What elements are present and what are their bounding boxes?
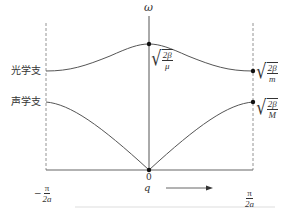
optical-max-annotation: √2βμ xyxy=(150,47,173,71)
optical-edge-annotation: √2βm xyxy=(255,60,278,84)
optical-branch-label: 光学支 xyxy=(11,66,41,76)
left-bound-label: − π2a xyxy=(34,183,52,204)
origin-label: 0 xyxy=(146,173,152,182)
acoustic-edge-annotation: √2βM xyxy=(255,96,278,120)
q-label: q xyxy=(144,183,150,193)
omega-label: ω xyxy=(144,2,153,13)
arrow-head-icon xyxy=(206,186,213,191)
acoustic-branch-label: 声学支 xyxy=(11,97,41,107)
right-bound-label: π2a xyxy=(245,183,254,209)
